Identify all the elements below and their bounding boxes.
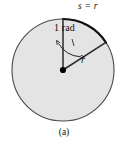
arc-length-label: s = r — [78, 2, 98, 12]
radius-label: r — [81, 55, 85, 65]
angle-label: 1 rad — [54, 23, 75, 33]
radian-definition-figure: s = r 1 rad r (a) — [0, 0, 128, 145]
center-dot — [60, 67, 66, 73]
figure-caption: (a) — [0, 128, 128, 138]
